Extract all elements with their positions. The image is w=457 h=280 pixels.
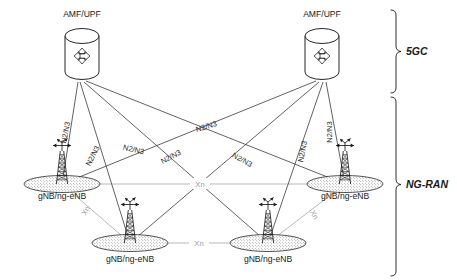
ran-node-gnb-right[interactable]: gNB/ng-eNB <box>307 139 383 202</box>
group-brace-ng-ran: NG-RAN <box>391 97 448 276</box>
group-label-5gc: 5GC <box>406 45 428 57</box>
ran-node-label: gNB/ng-eNB <box>106 254 155 264</box>
group-label-ng-ran: NG-RAN <box>406 178 448 190</box>
group-brace-5gc: 5GC <box>391 10 428 93</box>
n2n3-label-layer: N2/N3 N2/N3 N2/N3 N2/N3 N2/N3 N2/N3 N2/N… <box>59 119 334 169</box>
cell-tower-icon <box>307 139 383 193</box>
ran-node-gnb-bottom-left[interactable]: gNB/ng-eNB <box>92 198 168 265</box>
ng-ran-architecture-diagram: gNB/ng-eNB gNB/ng-eNB gNB/ng-eNB gNB/ng-… <box>0 0 457 280</box>
cell-tower-icon <box>92 198 168 252</box>
ran-node-gnb-left[interactable]: gNB/ng-eNB <box>24 139 100 202</box>
n2n3-link-label: N2/N3 <box>231 151 254 169</box>
xn-link-label: Xn <box>195 180 204 189</box>
n2n3-link-label: N2/N3 <box>84 144 102 167</box>
brace-ng-ran-shape <box>391 97 401 276</box>
xn-link-label: Xn <box>80 205 92 217</box>
xn-link-layer <box>62 184 345 243</box>
brace-5gc-shape <box>391 10 401 93</box>
cell-tower-icon <box>230 198 306 252</box>
ran-node-label: gNB/ng-eNB <box>38 191 87 201</box>
ran-node-gnb-bottom-right[interactable]: gNB/ng-eNB <box>230 198 306 265</box>
n2n3-link-label: N2/N3 <box>325 121 334 143</box>
core-node-label: AMF/UPF <box>63 9 101 19</box>
diagram-canvas: gNB/ng-eNB gNB/ng-eNB gNB/ng-eNB gNB/ng-… <box>0 0 457 280</box>
core-node-label: AMF/UPF <box>303 9 341 19</box>
n2n3-link-label: N2/N3 <box>122 143 145 157</box>
core-node-amf-upf-left[interactable]: AMF/UPF <box>63 9 101 80</box>
ran-node-label: gNB/ng-eNB <box>244 254 293 264</box>
xn-link-label: Xn <box>194 239 203 248</box>
n2n3-link-label: N2/N3 <box>296 140 309 163</box>
cylinder-four-arrows-icon <box>305 29 339 80</box>
cylinder-four-arrows-icon <box>65 29 99 80</box>
core-node-amf-upf-right[interactable]: AMF/UPF <box>303 9 341 80</box>
ran-node-label: gNB/ng-eNB <box>321 191 370 201</box>
